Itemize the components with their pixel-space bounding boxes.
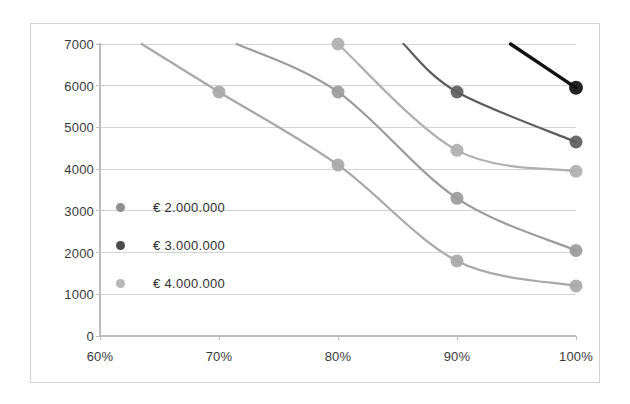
- legend-item: € 2.000.000: [110, 188, 260, 226]
- y-axis-tick-label: 4000: [38, 163, 94, 176]
- y-axis-tick-label: 1000: [38, 288, 94, 301]
- y-axis-tick-label: 3000: [38, 204, 94, 217]
- y-axis-tick-label: 6000: [38, 79, 94, 92]
- chart-legend: € 2.000.000€ 3.000.000€ 4.000.000: [110, 188, 260, 302]
- y-axis-tick-label: 0: [38, 330, 94, 343]
- y-axis-tick-label: 2000: [38, 246, 94, 259]
- x-axis-tick-label: 100%: [559, 350, 593, 363]
- x-axis-tick-label: 60%: [87, 350, 114, 363]
- legend-marker-icon: [116, 279, 125, 288]
- x-axis-tick-label: 70%: [206, 350, 233, 363]
- legend-item: € 4.000.000: [110, 264, 260, 302]
- legend-item: € 3.000.000: [110, 226, 260, 264]
- legend-label: € 4.000.000: [153, 276, 225, 291]
- y-axis-tick-label: 7000: [38, 38, 94, 51]
- y-axis-tick-label: 5000: [38, 121, 94, 134]
- legend-marker-icon: [116, 203, 125, 212]
- legend-label: € 2.000.000: [153, 200, 225, 215]
- x-axis-tick-label: 80%: [325, 350, 352, 363]
- legend-label: € 3.000.000: [153, 238, 225, 253]
- x-axis-tick-label: 90%: [444, 350, 471, 363]
- chart-container: 01000200030004000500060007000 60%70%80%9…: [0, 0, 630, 404]
- legend-marker-icon: [116, 241, 125, 250]
